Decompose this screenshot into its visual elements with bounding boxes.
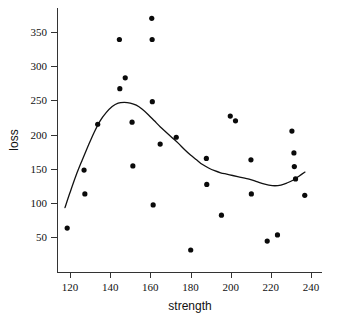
y-tick-label-350: 350 — [31, 26, 48, 38]
y-tick-label-50: 50 — [36, 231, 48, 243]
data-point — [150, 37, 155, 42]
x-tick-label-180: 180 — [182, 281, 199, 293]
y-axis-title: loss — [7, 129, 21, 150]
data-point — [129, 120, 134, 125]
data-point — [289, 128, 294, 133]
data-point — [188, 247, 193, 252]
data-point — [249, 191, 254, 196]
plot-canvas: 120140160180200220240 501001502002503003… — [0, 0, 337, 333]
y-tick-label-250: 250 — [31, 94, 48, 106]
x-tick-label-200: 200 — [222, 281, 239, 293]
data-point — [302, 193, 307, 198]
data-point — [204, 182, 209, 187]
loess-smoother-curve — [65, 102, 305, 207]
data-point — [291, 150, 296, 155]
data-point — [292, 164, 297, 169]
data-point — [219, 213, 224, 218]
data-point — [117, 86, 122, 91]
data-point — [65, 226, 70, 231]
data-point — [265, 239, 270, 244]
y-tick-label-100: 100 — [31, 197, 48, 209]
scatter-plot-figure: 120140160180200220240 501001502002503003… — [0, 0, 337, 333]
data-point — [123, 75, 128, 80]
y-axis-ticks — [51, 33, 57, 238]
y-tick-label-150: 150 — [31, 163, 48, 175]
y-tick-label-200: 200 — [31, 129, 48, 141]
data-point — [275, 232, 280, 237]
x-tick-label-160: 160 — [142, 281, 159, 293]
data-point — [233, 118, 238, 123]
data-point — [248, 157, 253, 162]
data-point — [81, 167, 86, 172]
data-point — [293, 176, 298, 181]
data-points-group — [65, 16, 308, 253]
data-point — [174, 135, 179, 140]
x-tick-label-240: 240 — [303, 281, 320, 293]
data-point — [151, 202, 156, 207]
data-point — [82, 191, 87, 196]
data-point — [149, 16, 154, 21]
x-axis-title: strength — [168, 299, 211, 313]
x-tick-label-140: 140 — [102, 281, 119, 293]
data-point — [150, 99, 155, 104]
y-axis-tick-labels: 50100150200250300350 — [31, 26, 48, 243]
data-point — [228, 113, 233, 118]
x-tick-label-220: 220 — [263, 281, 280, 293]
y-tick-label-300: 300 — [31, 60, 48, 72]
x-axis-tick-labels: 120140160180200220240 — [62, 281, 320, 293]
data-point — [204, 156, 209, 161]
x-tick-label-120: 120 — [62, 281, 79, 293]
data-point — [95, 122, 100, 127]
data-point — [117, 37, 122, 42]
data-point — [158, 141, 163, 146]
data-point — [130, 163, 135, 168]
